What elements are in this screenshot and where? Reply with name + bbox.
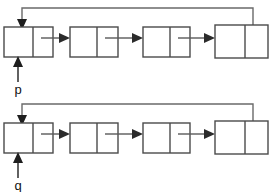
diagram-canvas: p	[0, 0, 271, 192]
upper-link-3-4-arrowhead	[204, 33, 215, 43]
lower-pointer-label: q	[14, 178, 21, 192]
upper-link-2-3-arrowhead	[132, 33, 143, 43]
upper-node-4	[215, 25, 268, 58]
upper-node-3	[143, 27, 190, 57]
lower-node-2-box	[70, 123, 118, 153]
lower-node-3-box	[143, 123, 190, 153]
lower-node-4-box	[215, 121, 268, 154]
lower-node-1-box	[4, 123, 53, 153]
upper-node-1	[4, 27, 53, 57]
lower-node-2	[70, 123, 118, 153]
upper-node-3-box	[143, 27, 190, 57]
linked-list-diagram: p	[0, 0, 271, 192]
upper-node-1-box	[4, 27, 53, 57]
lower-link-3-4-arrowhead	[204, 129, 215, 139]
lower-node-4	[215, 121, 268, 154]
upper-link-1-2-arrowhead	[59, 33, 70, 43]
lower-node-1	[4, 123, 53, 153]
upper-node-2	[70, 27, 118, 57]
upper-list-group: p	[4, 8, 268, 97]
upper-node-2-box	[70, 27, 118, 57]
lower-link-1-2-arrowhead	[59, 129, 70, 139]
upper-pointer-label: p	[14, 82, 21, 97]
lower-list-group: q	[4, 104, 268, 192]
lower-link-2-3-arrowhead	[132, 129, 143, 139]
upper-node-4-box	[215, 25, 268, 58]
lower-node-3	[143, 123, 190, 153]
